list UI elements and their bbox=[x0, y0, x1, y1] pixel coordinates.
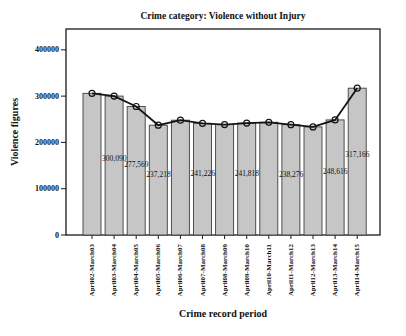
bar-line-plot: 0100000200000300000400000April02-March03… bbox=[0, 0, 406, 336]
bar-value-label: 277,569 bbox=[124, 160, 149, 169]
x-tick-label: April04-March05 bbox=[132, 244, 140, 297]
y-tick-label: 300000 bbox=[35, 92, 59, 101]
x-tick-label: April03-March04 bbox=[110, 244, 118, 297]
x-tick-label: April02-March03 bbox=[88, 244, 96, 297]
bar bbox=[238, 123, 256, 235]
y-tick-label: 400000 bbox=[35, 45, 59, 54]
y-tick-label: 100000 bbox=[35, 184, 59, 193]
x-tick-label: April11-March12 bbox=[287, 244, 295, 296]
bar bbox=[83, 93, 101, 235]
y-tick-label: 0 bbox=[55, 231, 59, 240]
bar-value-label: 241,226 bbox=[191, 169, 216, 178]
bar bbox=[304, 127, 322, 235]
bar bbox=[282, 125, 300, 235]
x-tick-label: April10-March11 bbox=[265, 244, 273, 296]
x-tick-label: April05-March06 bbox=[154, 244, 162, 297]
bar-value-label: 238,276 bbox=[279, 170, 304, 179]
x-tick-label: April12-March13 bbox=[309, 244, 317, 297]
bar bbox=[105, 96, 123, 235]
x-tick-label: April09-March10 bbox=[243, 244, 251, 297]
x-tick-label: April08-March09 bbox=[221, 244, 229, 297]
bar bbox=[171, 120, 189, 235]
bar bbox=[326, 120, 344, 235]
bar bbox=[127, 107, 145, 235]
bar bbox=[260, 122, 278, 235]
bar bbox=[216, 125, 234, 235]
x-tick-label: April14-March15 bbox=[353, 244, 361, 297]
bar-value-label: 241,818 bbox=[235, 169, 260, 178]
y-tick-label: 200000 bbox=[35, 138, 59, 147]
x-tick-label: April06-March07 bbox=[176, 244, 184, 297]
bar bbox=[194, 123, 212, 235]
bar-value-label: 237,218 bbox=[146, 170, 171, 179]
crime-chart-figure: Crime category: Violence without Injury … bbox=[0, 0, 406, 336]
bar-value-label: 248,616 bbox=[323, 167, 348, 176]
bar bbox=[149, 125, 167, 235]
bar bbox=[348, 88, 366, 235]
x-tick-label: April13-March14 bbox=[331, 244, 339, 297]
x-tick-label: April07-March08 bbox=[199, 244, 207, 297]
bar-value-label: 317,166 bbox=[345, 150, 370, 159]
bar-value-label: 300,090 bbox=[102, 154, 127, 163]
